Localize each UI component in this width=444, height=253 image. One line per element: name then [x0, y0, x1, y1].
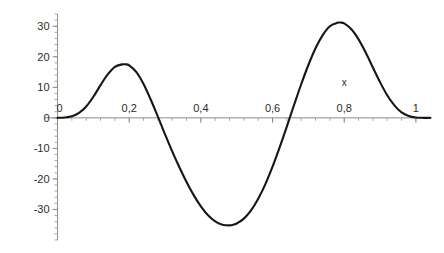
y-tick-label: 20	[37, 51, 49, 63]
x-axis-origin-label: 0	[56, 102, 62, 114]
x-tick-label: 0,8	[337, 102, 352, 114]
x-tick-label: 1	[413, 102, 419, 114]
chart-figure: 0,20,40,60,81 302010-10-20-30 0 0 x	[0, 0, 444, 253]
y-tick-label: 30	[37, 20, 49, 32]
y-tick-label: -10	[34, 142, 50, 154]
x-axis-title: x	[342, 77, 347, 88]
x-tick-label: 0,4	[193, 102, 208, 114]
y-axis-group: 302010-10-20-30	[34, 14, 58, 240]
x-axis-major-ticks	[58, 118, 416, 123]
data-series-curve	[58, 22, 431, 225]
y-tick-label: -20	[34, 173, 50, 185]
x-tick-label: 0,2	[122, 102, 137, 114]
y-axis-origin-label: 0	[43, 112, 49, 124]
y-tick-label: 10	[37, 81, 49, 93]
x-axis-tick-labels: 0,20,40,60,81	[122, 102, 419, 114]
x-axis-group: 0,20,40,60,81	[45, 102, 432, 123]
x-tick-label: 0,6	[265, 102, 280, 114]
plot-canvas: 0,20,40,60,81 302010-10-20-30 0 0 x	[0, 0, 444, 253]
y-tick-label: -30	[34, 203, 50, 215]
